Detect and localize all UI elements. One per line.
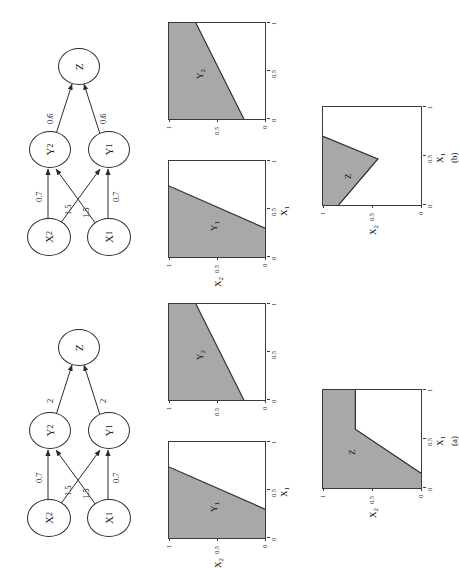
tick <box>323 488 324 491</box>
panel-a-plot-y2: Y2 0 0.5 1 1 0.5 0 <box>168 303 266 401</box>
panel-b-plot-y1-yaxis-title: X2 <box>213 277 225 287</box>
panel-a-plot-z-xtick-0: 0 <box>426 488 433 491</box>
edge-weight-y1-z: 2 <box>98 399 108 403</box>
panel-b-plot-y2-ytick-0: 0 <box>261 126 268 129</box>
tick <box>265 400 266 403</box>
panel-a-plot-y1-region <box>169 442 265 538</box>
panel-a-plot-z-label: Z <box>347 450 357 456</box>
panel-b-plot-z-xtick-1: 0.5 <box>426 155 433 163</box>
edge-weight-x1-y2: 1.5 <box>81 207 91 218</box>
panel-b-plot-z-xtick-0: 0 <box>426 205 433 208</box>
panel-b-network: X2 X1 Y2 Y1 Z 0.7 1.5 1.5 0.7 0.6 0.6 <box>18 12 138 262</box>
tick <box>265 538 266 541</box>
panel-a-caption: (a) <box>449 436 459 446</box>
panel-b-plot-y2-area <box>169 23 265 119</box>
node-x1: X1 <box>87 218 131 256</box>
panel-b-plot-y1-ytick-1: 0.5 <box>213 265 220 273</box>
panel-b-plot-z-ytick-0: 0 <box>417 212 424 215</box>
panel-b-plot-z-wrap: Z 0 0.5 1 1 0.5 0 X1 X2 (b) <box>300 72 440 232</box>
panel-a-plot-y1-yaxis-title: X2 <box>213 558 225 568</box>
edge-weight-x1-y1: 0.7 <box>111 472 121 483</box>
panel-b-plot-y1: Y1 0 0.5 1 1 0.5 0 X1 X2 <box>168 160 266 258</box>
panel-b-plot-y2-ytick-1: 0.5 <box>213 127 220 135</box>
panel-b-plot-y1-ytick-0: 0 <box>261 264 268 267</box>
edge-weight-x2-y2: 0.7 <box>34 472 44 483</box>
panel-b-plot-y2-xtick-2: 1 <box>270 22 277 25</box>
panel-b-caption: (b) <box>449 153 459 164</box>
panel-b-plot-y1-region <box>169 161 265 257</box>
panel-a-plot-y1-ytick-0: 0 <box>261 545 268 548</box>
panel-a-plot-y1-xtick-0: 0 <box>270 538 277 541</box>
panel-b-plot-z: Z 0 0.5 1 1 0.5 0 X1 X2 (b) <box>322 106 422 206</box>
panel-a-plot-z-wrap: Z 0 0.5 1 1 0.5 0 X1 X2 (a) <box>300 355 440 515</box>
edge-weight-y2-z: 2 <box>45 399 55 403</box>
panel-b-plot-y2-label: Y2 <box>195 69 207 79</box>
panel-b: X2 X1 Y2 Y1 Z 0.7 1.5 1.5 0.7 0.6 0.6 <box>8 0 278 270</box>
panel-a-network: X2 X1 Y2 Y1 Z 0.7 1.5 1.5 0.7 2 2 <box>18 293 138 543</box>
panel-b-plot-z-xaxis-title: X1 <box>435 153 447 163</box>
panel-b-plot-y2-xtick-1: 0.5 <box>270 70 277 78</box>
panel-a-plot-z-ytick-1: 0.5 <box>368 496 375 504</box>
node-z: Z <box>58 48 100 85</box>
panel-a-plot-z-xaxis-title: X1 <box>435 436 447 446</box>
panel-a-plot-z-region <box>323 390 421 488</box>
node-y1: Y1 <box>88 412 130 449</box>
panel-a-plot-y1-xtick-2: 1 <box>270 441 277 444</box>
panel-a: X2 X1 Y2 Y1 Z 0.7 1.5 1.5 0.7 2 2 <box>8 279 278 551</box>
panel-b-plot-z-region <box>323 107 421 205</box>
edge-weight-y2-z: 0.6 <box>45 113 55 124</box>
panel-a-plot-y2-xtick-2: 1 <box>270 303 277 306</box>
panel-a-plot-y1-ytick-1: 0.5 <box>213 546 220 554</box>
panel-b-plot-z-ytick-2: 1 <box>319 212 326 215</box>
tick <box>372 205 373 208</box>
tick <box>169 257 170 260</box>
panel-a-plot-z-xtick-1: 0.5 <box>426 438 433 446</box>
panel-a-plot-y1-xtick-1: 0.5 <box>270 489 277 497</box>
panel-b-plot-y1-xtick-2: 1 <box>270 160 277 163</box>
panel-a-plot-y2-ytick-1: 0.5 <box>213 408 220 416</box>
edge-weight-x2-y1: 1.5 <box>63 204 73 215</box>
tick <box>169 538 170 541</box>
node-x1: X1 <box>87 499 131 537</box>
tick <box>217 400 218 403</box>
panel-a-plot-y1: Y1 0 0.5 1 1 0.5 0 X1 X2 <box>168 441 266 539</box>
panel-b-plot-y1-area <box>169 161 265 257</box>
panel-b-plot-y2-region <box>169 23 265 119</box>
edge-weight-x2-y2: 0.7 <box>34 191 44 202</box>
tick <box>372 488 373 491</box>
tick <box>265 257 266 260</box>
panel-b-plot-z-ytick-1: 0.5 <box>368 213 375 221</box>
panel-a-plot-z: Z 0 0.5 1 1 0.5 0 X1 X2 (a) <box>322 389 422 489</box>
panel-a-plot-y2-region <box>169 304 265 400</box>
panel-b-plot-z-area <box>323 107 421 205</box>
tick <box>169 400 170 403</box>
panel-a-plot-y2-ytick-0: 0 <box>261 407 268 410</box>
edge-weight-x1-y1: 0.7 <box>111 191 121 202</box>
node-z: Z <box>58 329 100 366</box>
panel-a-plot-y1-xaxis-title: X1 <box>279 487 291 497</box>
panel-a-plot-y1-ytick-2: 1 <box>165 545 172 548</box>
edge-weight-x1-y2: 1.5 <box>81 488 91 499</box>
node-x2: X2 <box>27 499 71 537</box>
tick <box>323 205 324 208</box>
node-y2: Y2 <box>29 412 71 449</box>
panel-b-plot-y1-ytick-2: 1 <box>165 264 172 267</box>
panel-b-plot-y1-label: Y1 <box>209 221 221 231</box>
panel-a-plot-z-area <box>323 390 421 488</box>
panel-b-plot-y2-ytick-2: 1 <box>165 126 172 129</box>
tick <box>169 119 170 122</box>
tick <box>265 119 266 122</box>
node-x2: X2 <box>27 218 71 256</box>
panel-a-plot-y2-area <box>169 304 265 400</box>
panel-b-plot-y1-xtick-1: 0.5 <box>270 208 277 216</box>
tick <box>217 257 218 260</box>
panel-a-plot-z-ytick-2: 1 <box>319 495 326 498</box>
panel-b-plot-y1-xtick-0: 0 <box>270 257 277 260</box>
panel-a-plot-y1-area <box>169 442 265 538</box>
panel-a-plot-y2-label: Y2 <box>195 350 207 360</box>
node-y2: Y2 <box>29 131 71 168</box>
panel-a-plot-y2-xtick-1: 0.5 <box>270 351 277 359</box>
edge-weight-y1-z: 0.6 <box>98 113 108 124</box>
panel-b-plot-z-xtick-2: 1 <box>426 106 433 109</box>
